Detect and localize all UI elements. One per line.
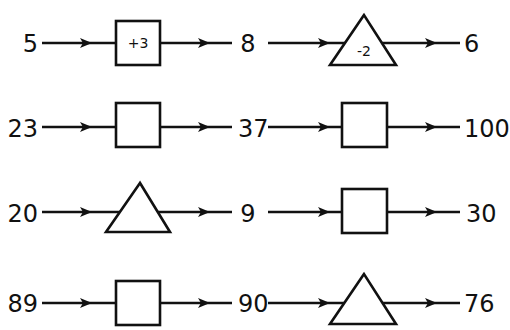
- row-4: 89 90 76: [7, 274, 494, 325]
- row-1-start: 5: [23, 30, 38, 58]
- row-4-mid: 90: [238, 290, 269, 318]
- row-1-op1: +3: [128, 35, 149, 51]
- row-1-end: 6: [464, 30, 479, 58]
- square-operator: [116, 281, 160, 325]
- row-4-end: 76: [464, 290, 495, 318]
- row-3-mid: 9: [240, 200, 255, 228]
- row-1: 5 +3 8 -2 6: [23, 15, 480, 65]
- row-3-start: 20: [7, 200, 38, 228]
- square-operator: [342, 189, 387, 233]
- row-3-end: 30: [466, 200, 497, 228]
- row-3: 20 9 30: [7, 183, 496, 233]
- row-4-start: 89: [7, 290, 38, 318]
- row-1-mid: 8: [240, 30, 255, 58]
- row-2-start: 23: [7, 115, 38, 143]
- square-operator: [342, 103, 387, 147]
- row-1-op2: -2: [357, 43, 371, 59]
- row-2: 23 37 100: [7, 103, 509, 147]
- triangle-operator: [106, 183, 170, 232]
- row-2-end: 100: [464, 115, 510, 143]
- function-machine-diagram: 5 +3 8 -2 6 23 37 100 20: [0, 0, 510, 330]
- row-2-mid: 37: [238, 115, 269, 143]
- square-operator: [116, 103, 160, 147]
- triangle-operator: [330, 274, 396, 324]
